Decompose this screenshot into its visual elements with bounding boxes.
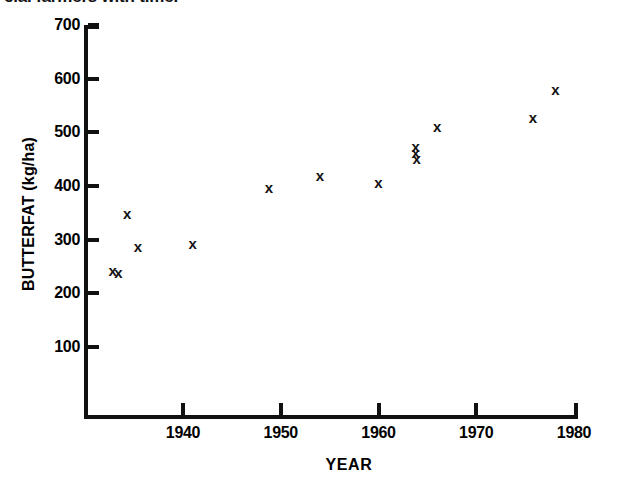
data-point: x: [410, 151, 424, 165]
data-point: x: [526, 110, 540, 124]
data-point: x: [262, 180, 276, 194]
y-tick-700: [88, 23, 99, 27]
x-tick-1950: [279, 403, 283, 415]
data-point: x: [111, 265, 125, 279]
data-point: x: [120, 206, 134, 220]
y-tick-400: [88, 184, 99, 188]
y-tick-500: [88, 130, 99, 134]
scatter-chart-figure: cial farmers with time. 1002003004005006…: [0, 0, 629, 484]
y-axis-title: BUTTERFAT (kg/ha): [20, 99, 38, 329]
x-axis-right-cap: [574, 403, 578, 415]
x-tick-1960: [377, 403, 381, 415]
x-tick-label-1940: 1940: [148, 424, 218, 442]
data-point: x: [548, 82, 562, 96]
y-tick-100: [88, 345, 99, 349]
y-axis-line: [84, 25, 88, 419]
x-tick-label-1970: 1970: [441, 424, 511, 442]
data-point: x: [131, 239, 145, 253]
x-axis-line: [84, 415, 578, 419]
x-tick-1940: [181, 403, 185, 415]
data-point: x: [313, 168, 327, 182]
x-tick-label-1980: 1980: [539, 424, 609, 442]
y-tick-600: [88, 77, 99, 81]
x-tick-1970: [474, 403, 478, 415]
x-tick-label-1960: 1960: [344, 424, 414, 442]
y-tick-label-600: 600: [28, 70, 80, 88]
x-axis-title: YEAR: [269, 456, 429, 474]
data-point: x: [372, 175, 386, 189]
y-tick-300: [88, 238, 99, 242]
figure-caption-text: cial farmers with time.: [0, 0, 300, 7]
data-point: x: [430, 119, 444, 133]
figure-caption: cial farmers with time.: [0, 0, 300, 9]
x-tick-label-1950: 1950: [246, 424, 316, 442]
y-tick-200: [88, 291, 99, 295]
y-tick-label-700: 700: [28, 16, 80, 34]
y-tick-label-100: 100: [28, 338, 80, 356]
data-point: x: [186, 236, 200, 250]
